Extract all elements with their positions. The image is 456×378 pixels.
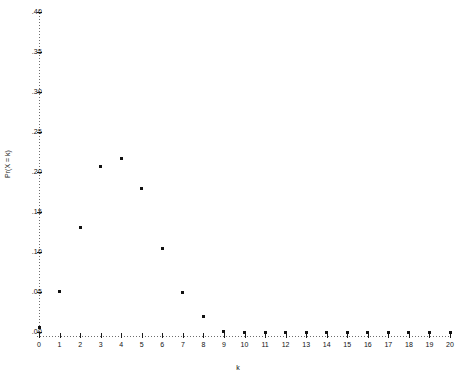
x-axis-tick-mark	[183, 333, 184, 338]
data-point	[222, 330, 225, 333]
x-axis-tick-label: 5	[132, 341, 152, 349]
y-axis-tick-label: .25	[12, 128, 42, 135]
data-point	[284, 331, 287, 334]
data-point	[38, 326, 41, 329]
x-axis-tick-mark	[80, 333, 81, 338]
data-point	[99, 165, 102, 168]
x-axis-tick-label: 0	[29, 341, 49, 349]
x-axis-tick-label: 16	[358, 341, 378, 349]
data-point	[181, 291, 184, 294]
x-axis-tick-mark	[388, 333, 389, 338]
x-axis-tick-mark	[162, 333, 163, 338]
x-axis-tick-label: 17	[378, 341, 398, 349]
x-axis-tick-label: 12	[276, 341, 296, 349]
data-point	[449, 331, 452, 334]
y-axis-tick-label: .40	[12, 8, 42, 15]
x-axis-tick-label: 18	[399, 341, 419, 349]
x-axis-tick-mark	[429, 333, 430, 338]
x-axis-tick-label: 10	[235, 341, 255, 349]
x-axis-tick-label: 4	[111, 341, 131, 349]
x-axis-tick-label: 6	[152, 341, 172, 349]
data-point	[79, 226, 82, 229]
data-point	[305, 331, 308, 334]
x-axis-tick-mark	[409, 333, 410, 338]
data-point	[387, 331, 390, 334]
data-point	[366, 331, 369, 334]
x-axis-tick-mark	[286, 333, 287, 338]
y-axis-tick-label: .35	[12, 48, 42, 55]
x-axis-tick-mark	[142, 333, 143, 338]
y-axis-tick-label-wrap: .40	[0, 8, 42, 16]
x-axis-tick-mark	[368, 333, 369, 338]
x-axis-tick-label: 3	[91, 341, 111, 349]
x-axis-tick-mark	[265, 333, 266, 338]
x-axis-tick-label: 14	[317, 341, 337, 349]
x-axis-tick-mark	[450, 333, 451, 338]
data-point	[428, 331, 431, 334]
data-point	[407, 331, 410, 334]
data-point	[202, 315, 205, 318]
x-axis-tick-mark	[203, 333, 204, 338]
x-axis-tick-label: 2	[70, 341, 90, 349]
x-axis-tick-label: 7	[173, 341, 193, 349]
y-axis-tick-label-wrap: .00	[0, 328, 42, 336]
y-axis-tick-label: .05	[12, 288, 42, 295]
x-axis-tick-label: 11	[255, 341, 275, 349]
x-axis-tick-label: 1	[50, 341, 70, 349]
x-axis-tick-mark	[39, 333, 40, 338]
data-point	[58, 290, 61, 293]
y-axis-tick-label-wrap: .15	[0, 208, 42, 216]
x-axis-tick-label: 15	[337, 341, 357, 349]
x-axis-tick-mark	[101, 333, 102, 338]
data-point	[120, 157, 123, 160]
y-axis-tick-label: .15	[12, 208, 42, 215]
y-axis-tick-label-wrap: .35	[0, 48, 42, 56]
y-axis-tick-label-wrap: .30	[0, 88, 42, 96]
x-axis-tick-label: 8	[193, 341, 213, 349]
x-axis-tick-label: 13	[296, 341, 316, 349]
x-axis-tick-mark	[347, 333, 348, 338]
x-axis-tick-mark	[245, 333, 246, 338]
x-axis-tick-label: 19	[419, 341, 439, 349]
data-point	[243, 331, 246, 334]
x-axis-tick-mark	[224, 333, 225, 338]
y-axis-tick-label-wrap: .10	[0, 248, 42, 256]
x-axis-tick-mark	[327, 333, 328, 338]
y-axis-title: Pr(X = k)	[4, 134, 12, 194]
x-axis-tick-mark	[60, 333, 61, 338]
x-axis-title: k	[228, 364, 248, 372]
x-axis-tick-mark	[306, 333, 307, 338]
y-axis-tick-label: .20	[12, 168, 42, 175]
y-axis-tick-label: .00	[12, 328, 42, 335]
data-point	[161, 247, 164, 250]
data-point	[264, 331, 267, 334]
y-axis-tick-label-wrap: .05	[0, 288, 42, 296]
data-point	[325, 331, 328, 334]
x-axis-tick-label: 20	[440, 341, 456, 349]
data-point	[140, 187, 143, 190]
y-axis-tick-label: .10	[12, 248, 42, 255]
data-point	[346, 331, 349, 334]
x-axis-tick-label: 9	[214, 341, 234, 349]
probability-scatter-plot: .00.05.10.15.20.25.30.35.40 012345678910…	[0, 0, 456, 378]
y-axis-tick-label: .30	[12, 88, 42, 95]
x-axis-tick-mark	[121, 333, 122, 338]
